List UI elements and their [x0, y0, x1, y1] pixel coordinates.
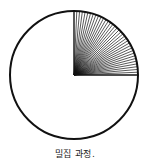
figure-caption: 밀집 과정. — [0, 147, 150, 160]
condensation-diagram — [0, 0, 150, 145]
